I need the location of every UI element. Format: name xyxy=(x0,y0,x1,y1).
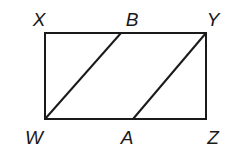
segment-wb xyxy=(45,33,121,119)
rectangle-wxyz xyxy=(45,33,206,119)
label-y: Y xyxy=(207,10,220,29)
label-w: W xyxy=(25,128,43,147)
label-a: A xyxy=(121,128,134,147)
segment-ay xyxy=(133,33,206,119)
label-x: X xyxy=(33,10,46,29)
label-z: Z xyxy=(207,128,219,147)
label-b: B xyxy=(126,10,139,29)
geometry-diagram: X B Y W A Z xyxy=(0,0,226,151)
